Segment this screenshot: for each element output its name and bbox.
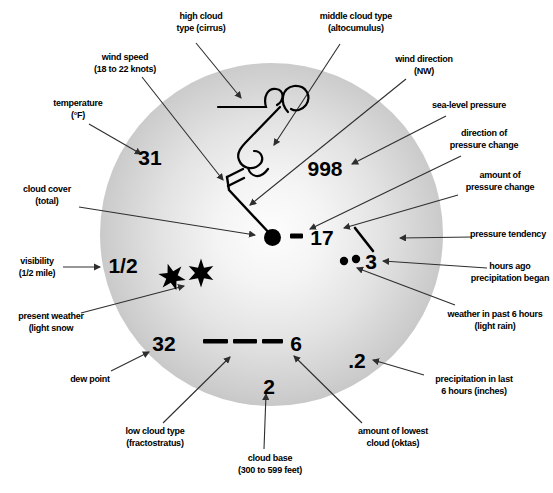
visibility-value: 1/2 — [108, 255, 137, 277]
fractostratus-dashes-icon — [203, 339, 283, 344]
station-model-diagram: high cloud type (cirrus) middle cloud ty… — [0, 0, 553, 493]
rain-dots-icon — [340, 255, 360, 265]
arrow-high-cloud — [196, 43, 241, 98]
label-cloud-cover: cloud cover (total) — [23, 184, 71, 207]
lowest-cloud-amount-value: 6 — [290, 333, 302, 355]
label-low-cloud: low cloud type (fractostratus) — [125, 426, 184, 449]
hours-ago-value: 3 — [365, 251, 377, 273]
arrow-precip-last-6h — [373, 360, 424, 375]
altocumulus-symbol-icon — [238, 107, 280, 176]
arrow-sea-level-pressure — [352, 116, 446, 164]
label-amount-lowest-cloud: amount of lowest cloud (oktas) — [358, 426, 428, 449]
sea-level-pressure-value: 998 — [307, 158, 342, 180]
label-middle-cloud: middle cloud type (altocumulus) — [320, 11, 392, 34]
label-visibility: visibility (1/2 mile) — [19, 256, 56, 279]
diagram-graphics — [0, 0, 553, 493]
label-cloud-base: cloud base (300 to 599 feet) — [238, 453, 302, 476]
label-dew-point: dew point — [70, 374, 110, 386]
cloud-base-value: 2 — [263, 376, 275, 398]
arrow-cloud-base — [264, 394, 266, 449]
arrow-cloud-cover — [79, 207, 255, 235]
pointer-arrows — [63, 43, 487, 449]
label-temperature: temperature (°F) — [53, 98, 102, 121]
label-present-weather: present weather (light snow — [18, 311, 83, 334]
wind-barb-icon — [227, 169, 272, 236]
pressure-change-direction-icon — [290, 234, 303, 239]
label-sea-level-pressure: sea-level pressure — [432, 100, 506, 112]
dew-point-value: 32 — [152, 333, 175, 355]
label-wind-speed: wind speed (18 to 22 knots) — [94, 52, 156, 75]
arrow-dew-point — [111, 352, 149, 371]
label-precip-last-6h: precipitation in last 6 hours (inches) — [435, 374, 512, 397]
label-weather-past-6h: weather in past 6 hours (light rain) — [448, 309, 543, 332]
arrow-present-weather — [81, 286, 184, 313]
temperature-value: 31 — [138, 147, 161, 169]
precipitation-value: .2 — [348, 350, 366, 372]
pressure-tendency-icon — [355, 228, 373, 251]
label-pressure-tendency: pressure tendency — [470, 229, 546, 241]
arrow-pressure-tendency — [400, 237, 472, 238]
snow-stars-icon — [156, 259, 213, 295]
label-amount-pressure-change: amount of pressure change — [466, 170, 534, 193]
arrow-wind-direction — [250, 79, 406, 205]
arrow-low-cloud — [163, 357, 230, 423]
cirrus-symbol-icon — [218, 86, 308, 112]
arrow-weather-past-6h — [357, 268, 455, 305]
label-high-cloud: high cloud type (cirrus) — [177, 11, 226, 34]
arrow-temperature — [89, 124, 141, 154]
pressure-change-value: 17 — [310, 227, 333, 249]
cloud-cover-icon — [264, 229, 281, 246]
label-hours-ago: hours ago precipitation began — [471, 261, 549, 284]
label-direction-pressure-change: direction of pressure change — [450, 128, 518, 151]
label-wind-direction: wind direction (NW) — [395, 54, 453, 77]
arrow-amount-pressure-change — [344, 195, 458, 228]
